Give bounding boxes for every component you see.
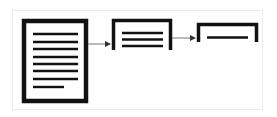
full-document-icon (24, 21, 86, 101)
single-line-document-icon (199, 25, 257, 43)
condensed-document-icon (114, 21, 171, 51)
diagram-canvas (0, 0, 277, 117)
